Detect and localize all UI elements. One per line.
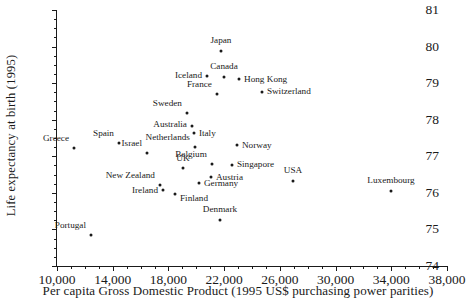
- y-axis-tick-minor: [54, 74, 57, 75]
- y-axis-tick-minor: [54, 92, 57, 93]
- data-point: [190, 125, 193, 128]
- data-point: [117, 142, 120, 145]
- y-axis-tick-label: 76: [426, 186, 440, 200]
- x-axis-tick-minor: [127, 266, 128, 269]
- x-axis-tick-major: [391, 266, 392, 271]
- y-axis-tick-minor: [54, 175, 57, 176]
- data-point-label: Netherlands: [146, 133, 190, 142]
- x-axis-tick-minor: [433, 266, 434, 269]
- data-point: [72, 146, 75, 149]
- x-axis-tick-minor: [238, 266, 239, 269]
- data-point: [218, 218, 221, 221]
- y-axis-tick-minor: [54, 165, 57, 166]
- data-point: [206, 75, 209, 78]
- y-axis-tick-major: [52, 47, 57, 48]
- y-axis-tick-label: 78: [426, 113, 440, 127]
- y-axis-tick-label: 80: [426, 40, 440, 54]
- x-axis-title: Per capita Gross Domestic Product (1995 …: [0, 283, 476, 299]
- data-point-label: Canada: [210, 63, 238, 72]
- data-point-label: Norway: [242, 142, 272, 151]
- data-point-label: Luxembourg: [367, 176, 414, 185]
- data-point: [185, 112, 188, 115]
- data-point-label: Denmark: [203, 205, 237, 214]
- data-point-label: Australia: [153, 121, 187, 130]
- data-point: [192, 131, 195, 134]
- y-axis-tick-minor: [54, 56, 57, 57]
- x-axis-tick-minor: [210, 266, 211, 269]
- data-point: [173, 192, 176, 195]
- x-axis-tick-minor: [419, 266, 420, 269]
- x-axis-tick-major: [57, 266, 58, 271]
- y-axis-title: Life expectancy at birth (1995): [0, 0, 24, 270]
- x-axis-tick-major: [280, 266, 281, 271]
- x-axis-tick-minor: [141, 266, 142, 269]
- data-point-label: Sweden: [153, 100, 182, 109]
- data-point: [291, 179, 294, 182]
- data-point: [210, 162, 213, 165]
- data-point: [215, 93, 218, 96]
- y-axis-tick-minor: [54, 248, 57, 249]
- data-point: [193, 145, 196, 148]
- data-point-label: Spain: [93, 130, 114, 139]
- y-axis-tick-minor: [54, 211, 57, 212]
- data-point-label: New Zealand: [106, 171, 155, 180]
- data-point-label: Singapore: [237, 160, 274, 169]
- data-point-label: Portugal: [55, 221, 86, 230]
- data-point: [89, 233, 92, 236]
- data-point-label: Ireland: [132, 186, 158, 195]
- x-axis-tick-major: [336, 266, 337, 271]
- plot-area: 7475767778798081 10,00014,00018,00022,00…: [57, 10, 447, 266]
- data-point-label: Hong Kong: [244, 75, 287, 84]
- data-point-label: France: [187, 81, 212, 90]
- data-point-label: Israel: [122, 139, 142, 148]
- data-point-label: Italy: [199, 129, 216, 138]
- y-axis-tick-minor: [54, 28, 57, 29]
- x-axis-tick-minor: [85, 266, 86, 269]
- x-axis-tick-minor: [155, 266, 156, 269]
- y-axis-tick-minor: [54, 239, 57, 240]
- y-axis-tick-major: [52, 193, 57, 194]
- y-axis-tick-minor: [54, 65, 57, 66]
- x-axis-tick-minor: [196, 266, 197, 269]
- x-axis-tick-minor: [377, 266, 378, 269]
- x-axis-title-text: Per capita Gross Domestic Product (1995 …: [43, 283, 434, 298]
- y-axis-tick-minor: [54, 147, 57, 148]
- y-axis-tick-minor: [54, 202, 57, 203]
- data-point-label: Belgium: [175, 150, 207, 159]
- x-axis-tick-minor: [405, 266, 406, 269]
- data-point-label: Iceland: [175, 72, 202, 81]
- x-axis-tick-minor: [252, 266, 253, 269]
- y-axis-tick-label: 79: [426, 76, 440, 90]
- x-axis-tick-minor: [363, 266, 364, 269]
- x-axis-tick-minor: [99, 266, 100, 269]
- x-axis-tick-major: [168, 266, 169, 271]
- y-axis-tick-minor: [54, 257, 57, 258]
- y-axis-tick-minor: [54, 37, 57, 38]
- data-point: [230, 163, 233, 166]
- y-axis-tick-minor: [54, 111, 57, 112]
- data-point-label: Switzerland: [267, 87, 311, 96]
- data-point: [235, 144, 238, 147]
- y-axis-tick-minor: [54, 19, 57, 20]
- data-point: [181, 166, 184, 169]
- x-axis-tick-minor: [294, 266, 295, 269]
- y-axis-tick-major: [52, 83, 57, 84]
- data-point: [223, 76, 226, 79]
- data-point: [219, 49, 222, 52]
- x-axis-tick-minor: [350, 266, 351, 269]
- data-point: [238, 77, 241, 80]
- y-axis-title-text: Life expectancy at birth (1995): [5, 54, 20, 216]
- data-point-label: Finland: [180, 194, 208, 203]
- x-axis-tick-minor: [71, 266, 72, 269]
- y-axis-tick-major: [52, 120, 57, 121]
- data-point-label: USA: [284, 166, 302, 175]
- x-axis-tick-minor: [182, 266, 183, 269]
- y-axis-tick-label: 81: [426, 3, 440, 17]
- data-point: [158, 183, 161, 186]
- data-point: [260, 90, 263, 93]
- y-axis-tick-minor: [54, 184, 57, 185]
- x-axis-tick-minor: [322, 266, 323, 269]
- y-axis-tick-label: 75: [426, 223, 440, 237]
- y-axis-tick-major: [52, 156, 57, 157]
- x-axis-tick-major: [224, 266, 225, 271]
